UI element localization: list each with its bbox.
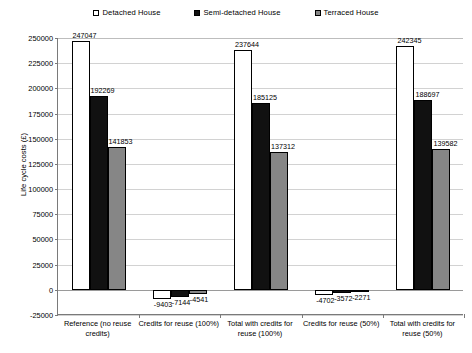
x-tick-mark bbox=[464, 314, 465, 318]
y-tick-label: 100000 bbox=[28, 185, 53, 194]
bar[interactable] bbox=[351, 290, 369, 292]
bar[interactable] bbox=[171, 290, 189, 297]
bar-group: -4702-3572-2271 bbox=[302, 38, 383, 314]
x-tick-mark bbox=[139, 314, 140, 318]
y-tick-label: 150000 bbox=[28, 134, 53, 143]
y-tick-label: 200000 bbox=[28, 84, 53, 93]
bar[interactable] bbox=[72, 41, 90, 290]
x-tick-mark bbox=[302, 314, 303, 318]
bar[interactable] bbox=[333, 290, 351, 294]
bar[interactable] bbox=[234, 50, 252, 289]
x-tick-mark bbox=[383, 314, 384, 318]
y-tick-label: 25000 bbox=[32, 260, 53, 269]
x-axis-category-label: Credits for reuse (100%) bbox=[138, 319, 219, 329]
bar-value-label: 185125 bbox=[253, 94, 277, 101]
bar-value-label: -9403 bbox=[154, 301, 172, 308]
y-tick-label: 175000 bbox=[28, 109, 53, 118]
bar-value-label: 247047 bbox=[73, 32, 97, 39]
bar-value-label: 141853 bbox=[109, 138, 133, 145]
bar-group: 247047192269141853 bbox=[58, 38, 139, 314]
bar-value-label: -3572 bbox=[334, 295, 352, 302]
bar-group: 242345188697139582 bbox=[383, 38, 464, 314]
chart-legend: Detached HouseSemi-detached HouseTerrace… bbox=[0, 9, 472, 17]
bar[interactable] bbox=[270, 152, 288, 290]
y-tick-label: 125000 bbox=[28, 159, 53, 168]
y-tick-label: 250000 bbox=[28, 34, 53, 43]
legend-item-0: Detached House bbox=[93, 9, 160, 17]
bar[interactable] bbox=[90, 96, 108, 290]
bar-value-label: 139582 bbox=[433, 140, 457, 147]
bar[interactable] bbox=[189, 290, 207, 295]
bar-group: -9403-7144-4541 bbox=[139, 38, 220, 314]
x-axis-category-label: Credits for reuse (50%) bbox=[301, 319, 382, 329]
legend-swatch-icon bbox=[315, 10, 321, 16]
x-tick-mark bbox=[220, 314, 221, 318]
bar-value-label: 242345 bbox=[397, 37, 421, 44]
bar-value-label: -7144 bbox=[172, 299, 190, 306]
bar-value-label: -4541 bbox=[190, 296, 208, 303]
bar-value-label: 137312 bbox=[271, 143, 295, 150]
bar[interactable] bbox=[153, 290, 171, 299]
bar[interactable] bbox=[414, 100, 432, 290]
bar[interactable] bbox=[432, 149, 450, 290]
legend-swatch-icon bbox=[93, 10, 99, 16]
y-axis-title: Life cycle costs (£) bbox=[19, 100, 28, 230]
bar-value-label: 192269 bbox=[91, 87, 115, 94]
plot-area: 2500002250002000001750001500001250001000… bbox=[57, 38, 463, 315]
legend-label: Terraced House bbox=[324, 9, 379, 17]
legend-swatch-icon bbox=[194, 10, 200, 16]
bar-value-label: -4702 bbox=[316, 297, 334, 304]
x-axis-category-label: Reference (no reuse credits) bbox=[57, 319, 138, 339]
legend-item-1: Semi-detached House bbox=[194, 9, 280, 17]
y-tick-label: 50000 bbox=[32, 235, 53, 244]
bar-value-label: 188697 bbox=[415, 91, 439, 98]
x-axis-category-labels: Reference (no reuse credits)Credits for … bbox=[57, 319, 463, 353]
bar-group: 237644185125137312 bbox=[220, 38, 301, 314]
x-axis-category-label: Total with credits for reuse (100%) bbox=[219, 319, 300, 339]
bar[interactable] bbox=[315, 290, 333, 295]
gridline bbox=[58, 315, 463, 316]
bar-value-label: 237644 bbox=[235, 41, 259, 48]
y-tick-label: 225000 bbox=[28, 59, 53, 68]
y-tick-mark bbox=[55, 315, 58, 316]
bar[interactable] bbox=[108, 147, 126, 290]
y-tick-label: 75000 bbox=[32, 210, 53, 219]
legend-item-2: Terraced House bbox=[315, 9, 379, 17]
legend-label: Detached House bbox=[102, 9, 160, 17]
y-tick-label: 0 bbox=[49, 285, 53, 294]
bar-value-label: -2271 bbox=[352, 294, 370, 301]
bar[interactable] bbox=[252, 103, 270, 289]
x-axis-category-label: Total with credits for reuse (50%) bbox=[382, 319, 463, 339]
y-tick-label: -25000 bbox=[30, 311, 53, 320]
bar[interactable] bbox=[396, 46, 414, 290]
legend-label: Semi-detached House bbox=[203, 9, 280, 17]
bar-chart: Detached HouseSemi-detached HouseTerrace… bbox=[0, 0, 472, 353]
